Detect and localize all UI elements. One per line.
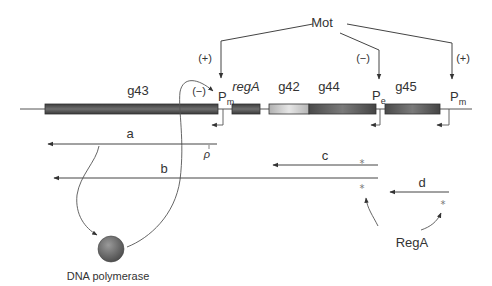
gene-g44-box bbox=[309, 104, 376, 114]
rega-protein-label: RegA bbox=[396, 235, 429, 250]
rega-arrow-to-d bbox=[421, 213, 441, 230]
effect-pe: (−) bbox=[356, 52, 370, 64]
promoter-pm-right: Pm bbox=[437, 89, 466, 125]
svg-text:Pm: Pm bbox=[450, 89, 466, 107]
gene-rega-label: regA bbox=[232, 79, 259, 94]
star-b: * bbox=[360, 183, 365, 194]
gene-regulation-diagram: Mot (+) (−) (+) g43 regA g42 g44 g45 Pm … bbox=[0, 0, 492, 286]
gene-g42-box bbox=[269, 104, 309, 114]
transcript-a-label: a bbox=[126, 126, 134, 141]
dna-polymerase-ball bbox=[98, 236, 124, 262]
mot-label: Mot bbox=[311, 15, 333, 30]
transcript-a-to-polymerase-arrow bbox=[77, 146, 99, 235]
svg-text:Pe: Pe bbox=[372, 88, 386, 106]
gene-g43-box bbox=[45, 104, 218, 114]
star-c: * bbox=[360, 158, 365, 169]
mot-arrow-pm-left bbox=[221, 24, 313, 78]
transcript-d-label: d bbox=[418, 175, 425, 190]
gene-g44-label: g44 bbox=[318, 79, 340, 94]
effect-pm-right: (+) bbox=[456, 52, 470, 64]
rega-arrow-to-b bbox=[366, 198, 378, 226]
effect-polymerase: (−) bbox=[192, 85, 206, 97]
terminator-rho: ρ bbox=[203, 148, 210, 160]
transcript-b-label: b bbox=[160, 161, 167, 176]
effect-pm-left: (+) bbox=[198, 52, 212, 64]
gene-g43-label: g43 bbox=[127, 83, 149, 98]
gene-rega-box bbox=[232, 104, 260, 114]
gene-g45-box bbox=[385, 104, 440, 114]
gene-g42-label: g42 bbox=[278, 79, 300, 94]
transcript-c-label: c bbox=[322, 148, 329, 163]
star-d: * bbox=[441, 199, 446, 210]
gene-g45-label: g45 bbox=[395, 79, 417, 94]
dna-polymerase-label: DNA polymerase bbox=[67, 270, 150, 282]
